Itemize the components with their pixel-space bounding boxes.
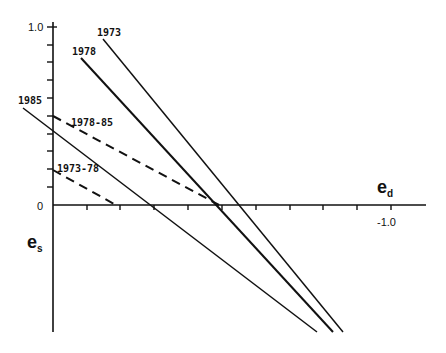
label-1978: 1978 (72, 46, 96, 57)
x-axis-title: ed (377, 177, 393, 199)
y-ticks (47, 27, 57, 187)
origin-label: 0 (37, 200, 43, 212)
line-1978 (81, 58, 333, 332)
y-tick-label-top: 1.0 (28, 21, 43, 33)
y-axis-title: es (27, 232, 43, 254)
x-tick-label-end: -1.0 (377, 216, 396, 228)
label-1985: 1985 (18, 95, 42, 106)
line-1978-85 (53, 116, 219, 205)
line-1973-78 (53, 170, 116, 205)
line-1985 (23, 108, 317, 332)
line-1973 (103, 39, 343, 332)
elasticity-chart: 1.0 0 -1.0 ed es 1973 1978 1985 1978-85 … (0, 0, 446, 353)
label-1978-85: 1978-85 (71, 117, 113, 128)
label-1973: 1973 (97, 27, 121, 38)
label-1973-78: 1973-78 (57, 163, 99, 174)
